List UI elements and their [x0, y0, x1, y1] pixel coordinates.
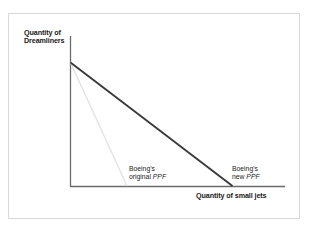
ppf-original-label-line2: original PPF: [129, 173, 166, 181]
ppf-new-label-line2: new PPF: [232, 173, 260, 181]
x-axis-label: Quantity of small jets: [196, 192, 267, 200]
figure-container: Quantity of Dreamliners Quantity of smal…: [0, 0, 309, 231]
ppf-original-label: Boeing's original PPF: [129, 165, 166, 181]
ppf-original-label-line1: Boeing's: [129, 165, 166, 173]
ppf-original-label-acronym: PPF: [153, 173, 166, 180]
ppf-new-label-acronym: PPF: [246, 173, 259, 180]
ppf-new-label-prefix: new: [232, 173, 246, 180]
y-axis-label-line2: Dreamliners: [24, 37, 64, 45]
ppf-new-label-line1: Boeing's: [232, 165, 260, 173]
ppf-original-line: [71, 63, 128, 187]
ppf-new-label: Boeing's new PPF: [232, 165, 260, 181]
ppf-original-label-prefix: original: [129, 173, 153, 180]
y-axis-label: Quantity of Dreamliners: [24, 29, 64, 46]
